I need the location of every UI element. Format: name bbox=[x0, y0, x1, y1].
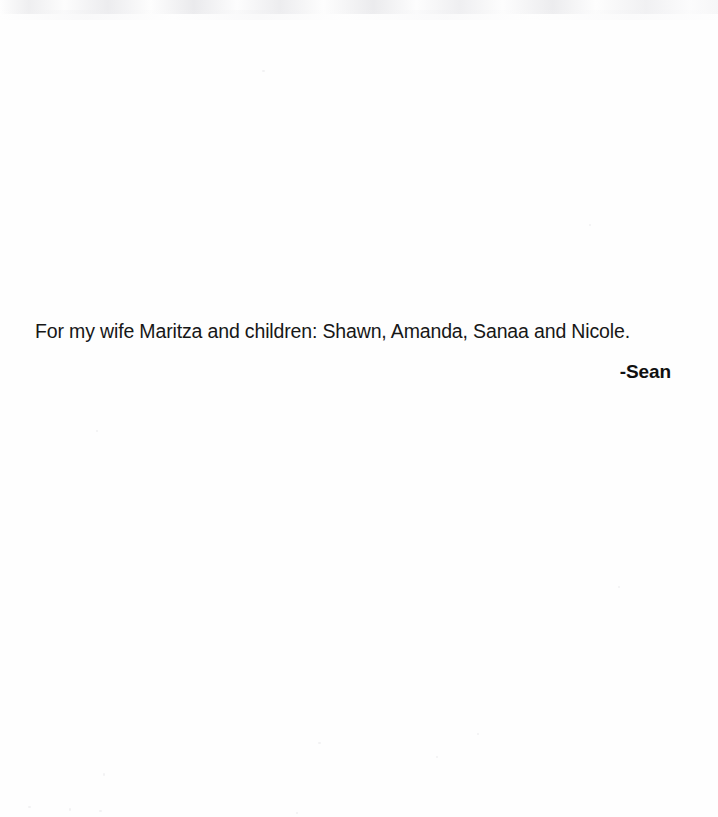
scan-speckle bbox=[296, 812, 298, 814]
scan-speckle bbox=[69, 808, 71, 811]
dedication-signature: -Sean bbox=[620, 361, 671, 382]
scan-speckle bbox=[618, 586, 620, 588]
scan-speckle bbox=[96, 430, 98, 432]
scanned-page: For my wife Maritza and children: Shawn,… bbox=[0, 0, 718, 817]
scan-speckle bbox=[262, 70, 265, 72]
scan-speckle bbox=[28, 806, 31, 808]
scan-speckle bbox=[103, 773, 105, 776]
dedication-body-text: For my wife Maritza and children: Shawn,… bbox=[35, 318, 685, 344]
scan-speckle bbox=[99, 810, 102, 812]
signature-row: -Sean bbox=[35, 360, 685, 384]
scan-speckle bbox=[477, 733, 479, 735]
scan-speckle bbox=[589, 224, 591, 226]
scan-speckle bbox=[436, 756, 438, 758]
scan-noise-top-edge bbox=[0, 0, 718, 14]
dedication-block: For my wife Maritza and children: Shawn,… bbox=[35, 318, 685, 384]
scan-speckle bbox=[318, 742, 321, 744]
